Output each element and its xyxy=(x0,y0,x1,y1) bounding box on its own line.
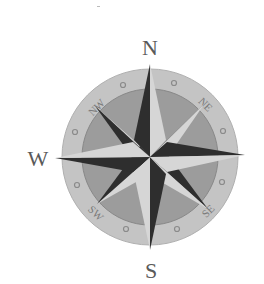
cardinal-points xyxy=(55,64,245,250)
compass-rose-graphic: NW NE SE SW xyxy=(0,0,264,284)
label-north: N xyxy=(142,35,158,60)
label-south: S xyxy=(145,258,157,283)
label-west: W xyxy=(28,146,49,171)
